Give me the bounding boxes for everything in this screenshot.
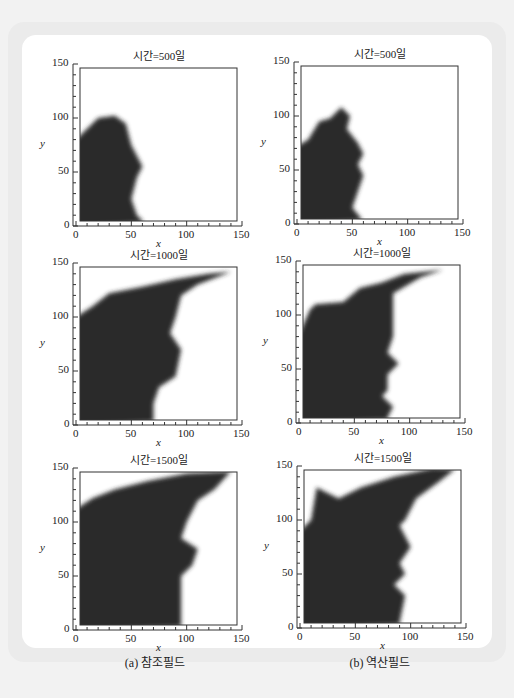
y-tick-label: 100: [52, 514, 69, 526]
plot-title: 시간=1500일: [74, 451, 244, 467]
heatmap-plot: [70, 62, 248, 232]
saturation-region: [76, 471, 231, 630]
x-tick-label: 0: [294, 226, 300, 238]
y-tick-label: 50: [58, 568, 69, 580]
y-axis-label: y: [40, 541, 45, 553]
heatmap-plot: [70, 466, 248, 636]
heatmap-plot: [291, 60, 469, 230]
x-tick-label: 0: [73, 228, 79, 240]
y-tick-label: 0: [64, 622, 70, 634]
x-axis-label: x: [156, 641, 161, 653]
x-tick-label: 150: [233, 427, 250, 439]
y-tick-label: 50: [282, 566, 293, 578]
saturation-region: [76, 272, 231, 425]
y-axis-label: y: [263, 334, 268, 346]
x-axis-label: x: [380, 639, 385, 651]
y-axis-label: y: [40, 137, 45, 149]
x-tick-label: 150: [233, 228, 250, 240]
y-tick-label: 150: [276, 458, 293, 470]
plot-title: 시간=1000일: [74, 246, 244, 262]
y-tick-label: 0: [285, 216, 291, 228]
saturation-region: [299, 270, 443, 423]
y-tick-label: 100: [52, 309, 69, 321]
y-axis-label: y: [264, 539, 269, 551]
x-tick-label: 50: [125, 427, 136, 439]
x-tick-label: 0: [297, 630, 303, 642]
y-tick-label: 150: [273, 54, 290, 66]
y-tick-label: 100: [276, 512, 293, 524]
y-tick-label: 100: [273, 108, 290, 120]
x-tick-label: 150: [457, 630, 474, 642]
saturation-region: [297, 107, 363, 224]
y-tick-label: 0: [64, 417, 70, 429]
y-tick-label: 0: [288, 620, 294, 632]
y-tick-label: 100: [275, 307, 292, 319]
y-tick-label: 150: [275, 253, 292, 265]
plot-title: 시간=1500일: [298, 449, 468, 465]
x-tick-label: 100: [399, 226, 416, 238]
x-tick-label: 50: [348, 425, 359, 437]
y-tick-label: 50: [279, 162, 290, 174]
x-tick-label: 0: [73, 427, 79, 439]
heatmap-plot: [294, 464, 472, 634]
x-tick-label: 100: [178, 427, 195, 439]
x-tick-label: 50: [125, 632, 136, 644]
y-tick-label: 150: [52, 255, 69, 267]
x-tick-label: 50: [346, 226, 357, 238]
y-tick-label: 50: [58, 164, 69, 176]
plot-title: 시간=1000일: [297, 244, 467, 260]
x-axis-label: x: [379, 434, 384, 446]
panel-caption-b: (b) 역산필드: [280, 653, 480, 671]
y-tick-label: 50: [58, 363, 69, 375]
x-tick-label: 100: [402, 630, 419, 642]
y-axis-label: y: [261, 135, 266, 147]
x-tick-label: 0: [73, 632, 79, 644]
x-tick-label: 50: [349, 630, 360, 642]
y-tick-label: 150: [52, 460, 69, 472]
x-tick-label: 100: [178, 632, 195, 644]
x-tick-label: 0: [296, 425, 302, 437]
y-tick-label: 50: [281, 361, 292, 373]
x-tick-label: 50: [125, 228, 136, 240]
y-axis-label: y: [40, 336, 45, 348]
plot-title: 시간=500일: [295, 45, 465, 61]
plot-title: 시간=500일: [74, 47, 244, 63]
x-axis-label: x: [156, 436, 161, 448]
y-tick-label: 0: [64, 218, 70, 230]
y-tick-label: 100: [52, 110, 69, 122]
saturation-region: [300, 468, 455, 628]
x-tick-label: 100: [178, 228, 195, 240]
panel-caption-a: (a) 참조필드: [55, 653, 255, 671]
y-tick-label: 150: [52, 56, 69, 68]
x-tick-label: 100: [401, 425, 418, 437]
heatmap-plot: [293, 259, 471, 429]
x-tick-label: 150: [233, 632, 250, 644]
x-tick-label: 150: [456, 425, 473, 437]
x-tick-label: 150: [454, 226, 471, 238]
y-tick-label: 0: [287, 415, 293, 427]
heatmap-plot: [70, 261, 248, 431]
saturation-region: [76, 116, 142, 226]
